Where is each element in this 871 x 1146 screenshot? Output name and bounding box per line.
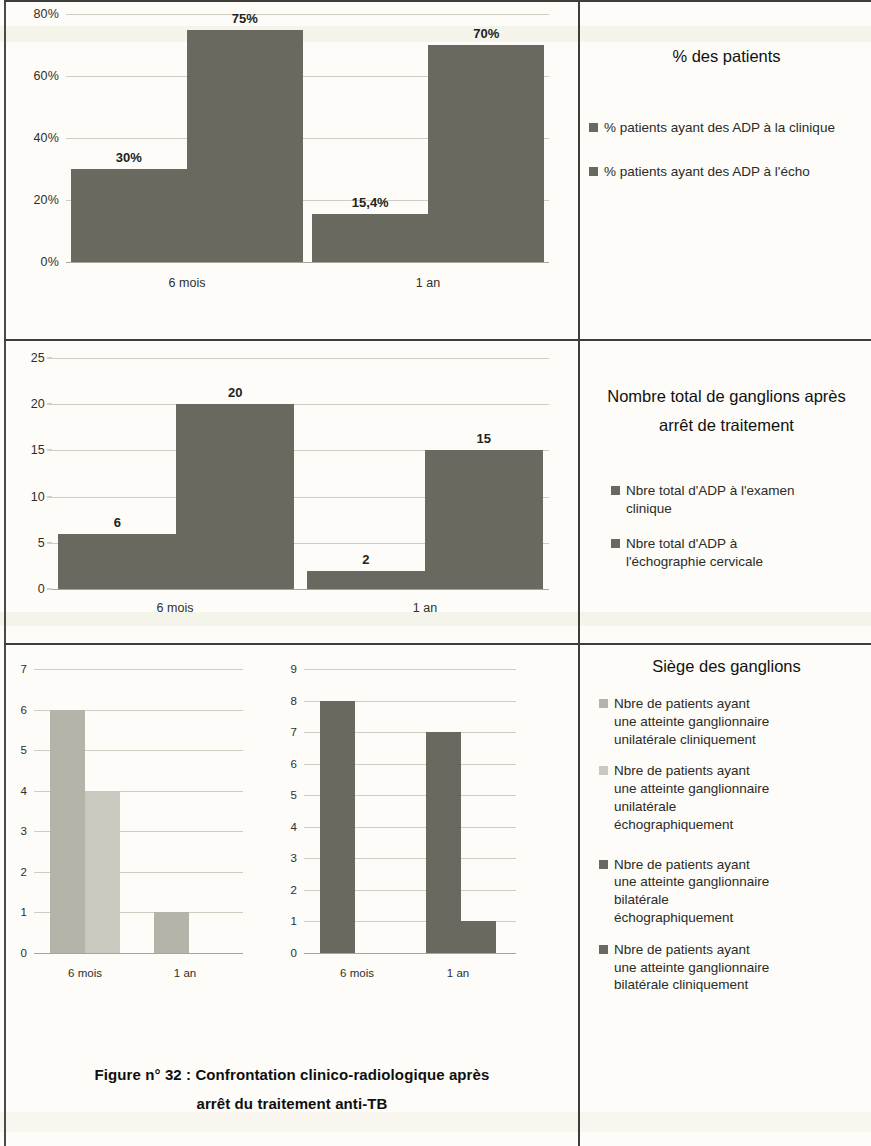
x-axis-label-chart2-0: 6 mois: [157, 601, 194, 615]
bar: [461, 921, 496, 953]
legend-item-label: Nbre de patients ayant une atteinte gang…: [614, 762, 771, 833]
bar: [50, 710, 85, 953]
panel-title-2-line1: Nombre total de ganglions après: [585, 382, 868, 411]
y-axis-tick-mark: [47, 542, 52, 543]
y-axis-tick-label: 7: [20, 663, 27, 675]
legend-panel-siege-ganglions: Siège des ganglions Nbre de patients aya…: [585, 652, 868, 1010]
bar: [176, 404, 294, 589]
y-axis-tick-label: 6: [20, 704, 27, 716]
y-axis-tick-mark: [47, 358, 52, 359]
y-axis-tick-label: 0: [38, 582, 45, 596]
bar: [187, 30, 303, 263]
panel-title-2-line2: arrêt de traitement: [585, 411, 868, 440]
document-page: 0%20%40%60%80%30%75%15,4%70% 6 mois 1 an…: [0, 0, 871, 1146]
legend-swatch-icon: [611, 486, 620, 495]
chart-siege-unilateral: 01234567 6 mois 1 an: [0, 645, 290, 1065]
y-axis-tick-label: 3: [20, 825, 27, 837]
y-axis-tick-label: 1: [20, 906, 27, 918]
legend-item[interactable]: % patients ayant des ADP à l'écho: [589, 163, 868, 181]
y-axis-tick-label: 80%: [33, 7, 59, 21]
y-axis-tick-label: 8: [290, 695, 297, 707]
panel-title-3: Siège des ganglions: [585, 652, 868, 681]
legend-item[interactable]: Nbre de patients ayant une atteinte gang…: [599, 941, 771, 994]
y-axis-tick-label: 5: [38, 536, 45, 550]
y-axis-tick-label: 1: [290, 915, 297, 927]
y-axis-tick-label: 5: [20, 744, 27, 756]
y-axis-tick-label: 7: [290, 726, 297, 738]
bar-value-label: 30%: [116, 150, 142, 165]
x-axis-label-chart4-0: 6 mois: [340, 967, 374, 979]
y-axis-tick-label: 0: [20, 947, 27, 959]
chart-siege-bilateral: 0123456789 6 mois 1 an: [262, 645, 578, 1065]
gridline: [34, 953, 243, 954]
bar: [85, 791, 120, 953]
legend-swatch-icon: [599, 766, 608, 775]
y-axis-tick-mark: [47, 450, 52, 451]
y-axis-tick-label: 10: [31, 490, 45, 504]
figure-caption-line1: Figure n° 32 : Confrontation clinico-rad…: [14, 1060, 570, 1089]
bar-value-label: 15: [477, 431, 491, 446]
y-axis-tick-label: 25: [31, 351, 45, 365]
y-axis-tick-label: 20%: [33, 193, 59, 207]
legend-item[interactable]: Nbre de patients ayant une atteinte gang…: [599, 856, 771, 927]
legend-item[interactable]: Nbre total d'ADP à l'échographie cervica…: [611, 535, 811, 571]
plot-area-chart2: 0510152025620215: [52, 358, 549, 589]
y-axis-tick-label: 60%: [33, 69, 59, 83]
legend-item-label: % patients ayant des ADP à l'écho: [604, 163, 868, 181]
legend-list-3: Nbre de patients ayant une atteinte gang…: [585, 695, 868, 994]
y-axis-tick-label: 40%: [33, 131, 59, 145]
x-axis-label-chart4-1: 1 an: [447, 967, 469, 979]
x-axis-label-chart3-1: 1 an: [174, 967, 196, 979]
legend-item-label: % patients ayant des ADP à la clinique: [604, 119, 868, 137]
bar: [307, 571, 425, 589]
legend-item[interactable]: Nbre de patients ayant une atteinte gang…: [599, 695, 771, 748]
bar: [426, 732, 461, 953]
legend-item[interactable]: Nbre total d'ADP à l'examen clinique: [611, 482, 801, 518]
legend-item-label: Nbre total d'ADP à l'échographie cervica…: [626, 535, 811, 571]
y-axis-tick-label: 15: [31, 443, 45, 457]
x-axis-label-chart1-0: 6 mois: [169, 276, 206, 290]
gridline: [304, 669, 516, 670]
bar-value-label: 6: [114, 515, 121, 530]
y-axis-tick-label: 2: [20, 866, 27, 878]
legend-item[interactable]: Nbre de patients ayant une atteinte gang…: [599, 762, 771, 833]
legend-swatch-icon: [589, 123, 598, 132]
gridline: [52, 589, 549, 590]
legend-swatch-icon: [599, 945, 608, 954]
legend-item-label: Nbre total d'ADP à l'examen clinique: [626, 482, 801, 518]
bar-value-label: 15,4%: [352, 195, 389, 210]
gridline: [52, 358, 549, 359]
legend-panel-total-ganglions: Nombre total de ganglions après arrêt de…: [585, 382, 868, 587]
gridline: [52, 404, 549, 405]
bar-value-label: 20: [228, 385, 242, 400]
vertical-divider: [578, 0, 580, 1146]
y-axis-tick-label: 9: [290, 663, 297, 675]
bar-value-label: 75%: [232, 11, 258, 26]
bar: [320, 701, 355, 953]
panel-title-1: % des patients: [585, 42, 868, 71]
bar: [428, 45, 544, 262]
figure-caption-line2: arrêt du traitement anti-TB: [14, 1089, 570, 1118]
y-axis-tick-label: 4: [290, 821, 297, 833]
chart-total-ganglions: 0510152025620215 6 mois 1 an: [0, 341, 578, 643]
y-axis-tick-label: 3: [290, 852, 297, 864]
plot-area-chart1: 0%20%40%60%80%30%75%15,4%70%: [66, 14, 549, 262]
figure-caption: Figure n° 32 : Confrontation clinico-rad…: [14, 1060, 570, 1119]
legend-item[interactable]: % patients ayant des ADP à la clinique: [589, 119, 868, 137]
legend-panel-percent-patients: % des patients % patients ayant des ADP …: [585, 42, 868, 197]
legend-swatch-icon: [611, 539, 620, 548]
y-axis-tick-label: 20: [31, 397, 45, 411]
legend-item-label: Nbre de patients ayant une atteinte gang…: [614, 695, 771, 748]
bar-value-label: 70%: [473, 26, 499, 41]
bar: [154, 912, 189, 953]
bar-value-label: 2: [362, 552, 369, 567]
x-axis-label-chart1-1: 1 an: [416, 276, 440, 290]
y-axis-tick-label: 2: [290, 884, 297, 896]
legend-swatch-icon: [589, 167, 598, 176]
y-axis-tick-mark: [47, 496, 52, 497]
gridline: [66, 262, 549, 263]
gridline: [304, 953, 516, 954]
legend-list-1: % patients ayant des ADP à la clinique %…: [585, 119, 868, 181]
y-axis-tick-mark: [47, 589, 52, 590]
legend-swatch-icon: [599, 860, 608, 869]
